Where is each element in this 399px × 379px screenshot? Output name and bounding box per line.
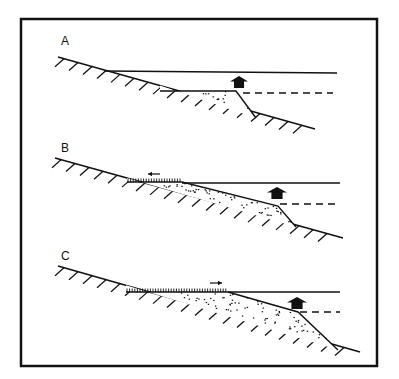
ground-hatch (234, 210, 243, 218)
ground-hatch (69, 272, 78, 280)
ground-hatch (167, 300, 176, 308)
ground-hatch (178, 195, 187, 203)
panel-label-a: A (61, 35, 69, 47)
ground-hatch (80, 167, 89, 175)
ground-hatch (192, 199, 201, 207)
ground-hatch (55, 268, 64, 276)
arrow-right-icon (218, 281, 222, 285)
uplift-arrow-icon (287, 297, 307, 309)
panel-label-b: B (61, 142, 69, 154)
ground-hatch (97, 70, 106, 78)
ground-hatch (139, 82, 148, 90)
ground-hatch (279, 121, 288, 129)
ground-hatch (206, 202, 215, 210)
ground-hatch (55, 59, 64, 67)
ground-hatch (111, 74, 120, 82)
panel-label-c: C (61, 250, 70, 262)
ground-hatch (304, 230, 313, 238)
ground-hatch (153, 296, 162, 304)
ground-hatch (52, 160, 61, 168)
uplift-arrow-icon (267, 187, 287, 199)
ground-hatch (125, 78, 134, 86)
ground-hatch (97, 280, 106, 288)
ground-hatch (293, 125, 302, 133)
ground-hatch (265, 118, 274, 126)
ground-hatch (111, 284, 120, 292)
ground-hatch (136, 183, 145, 191)
ground-hatch (318, 234, 327, 242)
ground-hatch (220, 206, 229, 214)
ground-hatch (164, 191, 173, 199)
ground-hatch (83, 276, 92, 284)
diagram-svg (0, 0, 399, 379)
ground-hatch (94, 171, 103, 179)
ground-hatch (139, 292, 148, 300)
uplift-arrow-icon (230, 76, 248, 88)
arrow-left-icon (148, 172, 152, 176)
ground-hatch (290, 226, 299, 234)
ground-hatch (195, 308, 204, 316)
ground-hatch (248, 214, 257, 222)
sediment-outline (127, 182, 296, 227)
ground-hatch (83, 67, 92, 75)
ground-hatch (66, 164, 75, 172)
ground-hatch (69, 63, 78, 71)
figure-stage: A B C (0, 0, 399, 379)
ground-hatch (181, 304, 190, 312)
ground-hatch (150, 187, 159, 195)
ground-hatch (108, 175, 117, 183)
water-level-line (105, 71, 337, 73)
